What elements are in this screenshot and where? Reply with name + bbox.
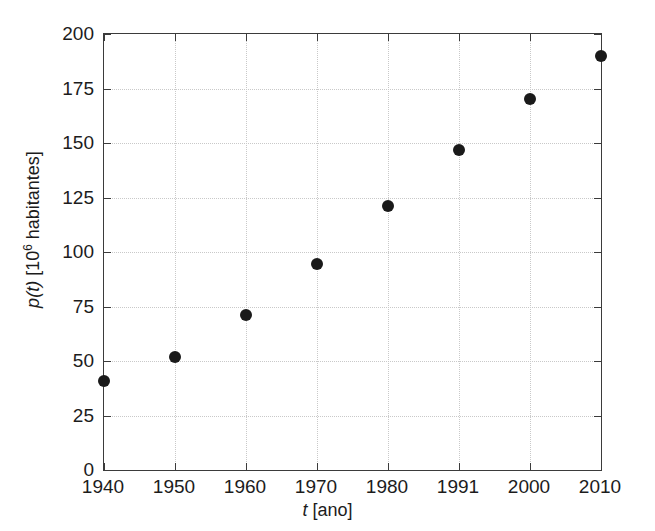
y-axis-tick-label: 125 (62, 187, 94, 206)
y-axis-tick-label: 150 (62, 133, 94, 152)
x-axis-tick-mark-top (246, 34, 247, 41)
gridline-vertical (459, 34, 460, 470)
x-axis-tick-mark (175, 463, 176, 470)
y-axis-tick-mark (104, 89, 111, 90)
y-axis-tick-mark-right (594, 470, 601, 471)
x-axis-tick-mark (388, 463, 389, 470)
y-axis-tick-mark-right (594, 198, 601, 199)
y-axis-title-units-prefix: [10 (23, 251, 43, 281)
data-point (453, 144, 465, 156)
x-axis-title: t [ano] (0, 500, 655, 521)
gridline-horizontal (104, 307, 601, 308)
data-point (98, 375, 110, 387)
data-point (240, 309, 252, 321)
x-axis-tick-labels: 19401950196019701980199120002010 (103, 476, 602, 502)
x-axis-tick-mark (530, 463, 531, 470)
y-axis-tick-mark-right (594, 89, 601, 90)
y-axis-tick-mark (104, 143, 111, 144)
y-axis-tick-label: 75 (73, 296, 94, 315)
x-axis-tick-mark (104, 463, 105, 470)
y-axis-tick-mark (104, 198, 111, 199)
gridline-horizontal (104, 143, 601, 144)
data-point (311, 258, 323, 270)
x-axis-tick-label: 2010 (579, 476, 621, 498)
y-axis-tick-labels: 0255075100125150175200 (0, 33, 94, 471)
x-axis-tick-label: 2000 (508, 476, 550, 498)
gridline-vertical (175, 34, 176, 470)
y-axis-tick-mark-right (594, 252, 601, 253)
gridline-vertical (388, 34, 389, 470)
x-axis-tick-label: 1980 (366, 476, 408, 498)
data-point (595, 50, 607, 62)
y-axis-tick-mark (104, 416, 111, 417)
y-axis-tick-label: 50 (73, 351, 94, 370)
x-axis-title-units: [ano] (307, 500, 352, 520)
gridline-horizontal (104, 416, 601, 417)
data-point (169, 351, 181, 363)
y-axis-tick-mark (104, 470, 111, 471)
x-axis-tick-label: 1940 (82, 476, 124, 498)
y-axis-tick-mark-right (594, 307, 601, 308)
y-axis-title-arg: (t) (23, 281, 43, 298)
y-axis-tick-mark-right (594, 34, 601, 35)
gridline-horizontal (104, 89, 601, 90)
plot-area (103, 33, 602, 471)
x-axis-tick-mark-top (175, 34, 176, 41)
y-axis-tick-mark-right (594, 143, 601, 144)
y-axis-tick-label: 100 (62, 242, 94, 261)
y-axis-tick-mark (104, 34, 111, 35)
x-axis-tick-mark-top (530, 34, 531, 41)
data-point (524, 93, 536, 105)
x-axis-tick-mark-top (104, 34, 105, 41)
y-axis-title-symbol: p (23, 298, 43, 308)
y-axis-title: p(t) [106 habitantes] (21, 10, 44, 450)
x-axis-tick-label: 1950 (153, 476, 195, 498)
x-axis-tick-mark-top (601, 34, 602, 41)
x-axis-tick-mark (459, 463, 460, 470)
x-axis-tick-label: 1991 (437, 476, 479, 498)
gridline-horizontal (104, 198, 601, 199)
x-axis-tick-mark (601, 463, 602, 470)
x-axis-tick-mark (317, 463, 318, 470)
y-axis-tick-mark (104, 361, 111, 362)
x-axis-tick-mark-top (459, 34, 460, 41)
data-point (382, 200, 394, 212)
gridline-vertical (317, 34, 318, 470)
y-axis-tick-mark-right (594, 361, 601, 362)
x-axis-tick-mark-top (388, 34, 389, 41)
y-axis-tick-label: 175 (62, 78, 94, 97)
gridline-horizontal (104, 252, 601, 253)
gridline-vertical (246, 34, 247, 470)
x-axis-tick-mark (246, 463, 247, 470)
y-axis-tick-mark (104, 252, 111, 253)
y-axis-tick-label: 25 (73, 405, 94, 424)
y-axis-tick-label: 200 (62, 24, 94, 43)
x-axis-tick-label: 1960 (224, 476, 266, 498)
y-axis-tick-mark (104, 307, 111, 308)
y-axis-tick-mark-right (594, 416, 601, 417)
x-axis-tick-label: 1970 (295, 476, 337, 498)
y-axis-title-exponent: 6 (21, 244, 35, 251)
figure-canvas: 0255075100125150175200 19401950196019701… (0, 0, 655, 531)
x-axis-tick-mark-top (317, 34, 318, 41)
y-axis-title-units-suffix: habitantes] (23, 151, 43, 244)
